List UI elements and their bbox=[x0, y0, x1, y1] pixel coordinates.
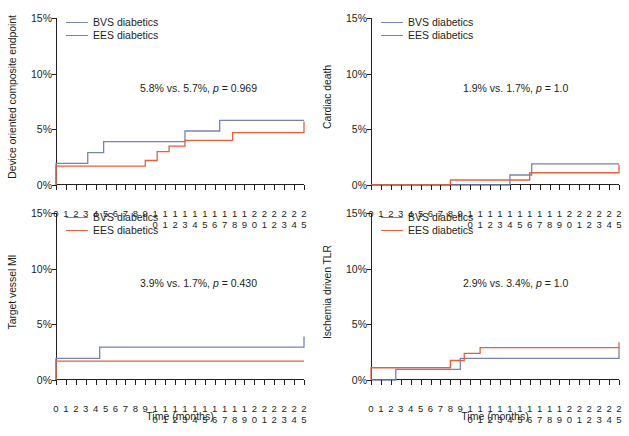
y-tick-mark bbox=[52, 18, 56, 19]
x-tick-mark bbox=[559, 380, 560, 385]
x-tick-mark bbox=[559, 185, 560, 190]
series-line-ees bbox=[371, 342, 619, 380]
x-tick-mark bbox=[619, 380, 620, 385]
x-tick-mark bbox=[145, 185, 146, 190]
x-tick-mark bbox=[411, 380, 412, 385]
x-tick-mark bbox=[579, 185, 580, 190]
x-tick-mark bbox=[215, 380, 216, 385]
x-tick-mark bbox=[391, 380, 392, 385]
series-line-bvs bbox=[56, 337, 304, 380]
x-tick-mark bbox=[125, 380, 126, 385]
x-tick-mark bbox=[116, 380, 117, 385]
legend-swatch-bvs bbox=[66, 217, 88, 218]
y-tick-mark bbox=[367, 74, 371, 75]
x-tick-mark bbox=[520, 185, 521, 190]
plot-area: 0%5%10%15%012345678910111213141516171819… bbox=[56, 18, 304, 185]
y-tick-label: 10% bbox=[346, 68, 367, 80]
x-tick-mark bbox=[274, 380, 275, 385]
legend-item-ees: EES diabetics bbox=[381, 224, 473, 237]
panel-target-vessel-mi: Target vessel MI 0%5%10%15%0123456789101… bbox=[0, 195, 314, 413]
x-tick-mark bbox=[304, 185, 305, 190]
x-tick-mark bbox=[460, 380, 461, 385]
x-tick-mark bbox=[106, 185, 107, 190]
y-tick-label: 5% bbox=[37, 318, 52, 330]
x-tick-mark bbox=[470, 185, 471, 190]
x-tick-mark bbox=[450, 380, 451, 385]
y-tick-label: 0% bbox=[352, 179, 367, 191]
legend-label-ees: EES diabetics bbox=[93, 29, 158, 42]
x-tick-mark bbox=[195, 380, 196, 385]
step-curves bbox=[56, 18, 304, 185]
y-tick-label: 0% bbox=[352, 374, 367, 386]
x-tick-mark bbox=[56, 380, 57, 385]
x-tick-mark bbox=[510, 185, 511, 190]
x-tick-mark bbox=[401, 380, 402, 385]
y-tick-label: 5% bbox=[352, 123, 367, 135]
x-tick-mark bbox=[96, 185, 97, 190]
legend-swatch-bvs bbox=[381, 22, 403, 23]
y-tick-label: 15% bbox=[31, 207, 52, 219]
x-tick-mark bbox=[569, 185, 570, 190]
x-tick-mark bbox=[274, 185, 275, 190]
x-tick-mark bbox=[500, 380, 501, 385]
x-tick-mark bbox=[490, 185, 491, 190]
step-curves bbox=[371, 213, 619, 380]
legend-item-ees: EES diabetics bbox=[381, 29, 473, 42]
series-line-bvs bbox=[371, 164, 619, 185]
legend: BVS diabetics EES diabetics bbox=[381, 211, 473, 237]
x-tick-mark bbox=[155, 380, 156, 385]
x-axis-title: Time (months) bbox=[56, 410, 304, 422]
x-tick-mark bbox=[440, 185, 441, 190]
legend-swatch-bvs bbox=[66, 22, 88, 23]
legend-swatch-ees bbox=[66, 230, 88, 231]
x-tick-mark bbox=[490, 380, 491, 385]
x-tick-mark bbox=[470, 380, 471, 385]
step-curves bbox=[371, 18, 619, 185]
x-tick-mark bbox=[609, 185, 610, 190]
y-tick-mark bbox=[367, 324, 371, 325]
y-tick-mark bbox=[367, 18, 371, 19]
y-axis-label: Target vessel MI bbox=[6, 199, 24, 385]
x-tick-mark bbox=[609, 380, 610, 385]
legend-label-ees: EES diabetics bbox=[408, 29, 473, 42]
legend: BVS diabetics EES diabetics bbox=[66, 16, 158, 42]
x-tick-mark bbox=[125, 185, 126, 190]
x-tick-mark bbox=[165, 185, 166, 190]
statistics-annotation: 1.9% vs. 1.7%, p = 1.0 bbox=[463, 82, 568, 94]
series-line-ees bbox=[56, 361, 304, 380]
x-tick-mark bbox=[431, 380, 432, 385]
x-tick-mark bbox=[460, 185, 461, 190]
x-tick-mark bbox=[116, 185, 117, 190]
x-tick-mark bbox=[589, 380, 590, 385]
y-tick-mark bbox=[367, 213, 371, 214]
y-tick-label: 0% bbox=[37, 179, 52, 191]
legend-label-ees: EES diabetics bbox=[93, 224, 158, 237]
x-tick-mark bbox=[411, 185, 412, 190]
series-line-ees bbox=[371, 164, 619, 185]
y-tick-label: 0% bbox=[37, 374, 52, 386]
x-tick-mark bbox=[569, 380, 570, 385]
x-tick-mark bbox=[440, 380, 441, 385]
panel-device-oriented-composite-endpoint: Device oriented composite endpoint 0%5%1… bbox=[0, 0, 314, 218]
x-tick-mark bbox=[225, 185, 226, 190]
series-line-bvs bbox=[371, 348, 619, 380]
x-tick-mark bbox=[421, 380, 422, 385]
x-tick-mark bbox=[510, 380, 511, 385]
x-tick-mark bbox=[185, 185, 186, 190]
plot-area: 0%5%10%15%012345678910111213141516171819… bbox=[371, 213, 619, 380]
x-tick-mark bbox=[235, 380, 236, 385]
step-curves bbox=[56, 213, 304, 380]
x-tick-mark bbox=[175, 380, 176, 385]
x-tick-mark bbox=[86, 380, 87, 385]
x-tick-mark bbox=[530, 380, 531, 385]
x-tick-mark bbox=[195, 185, 196, 190]
x-tick-mark bbox=[381, 380, 382, 385]
panel-ischemia-driven-tlr: Ischemia driven TLR 0%5%10%15%0123456789… bbox=[315, 195, 629, 413]
y-tick-mark bbox=[52, 129, 56, 130]
legend: BVS diabetics EES diabetics bbox=[66, 211, 158, 237]
legend-item-ees: EES diabetics bbox=[66, 29, 158, 42]
x-tick-mark bbox=[106, 380, 107, 385]
legend-label-bvs: BVS diabetics bbox=[408, 211, 473, 224]
y-axis-label: Ischemia driven TLR bbox=[321, 199, 339, 385]
legend-swatch-ees bbox=[381, 35, 403, 36]
